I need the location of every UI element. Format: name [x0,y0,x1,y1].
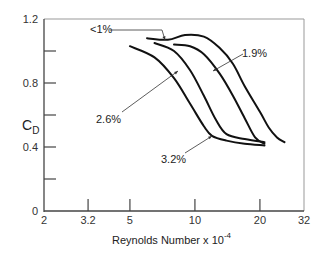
x-tick-label: 10 [189,214,201,226]
x-tick-label: 5 [127,214,133,226]
x-tick-label: 32 [298,214,310,226]
annotation-label: 1.9% [242,47,267,59]
x-tick-label: 20 [254,214,266,226]
annotation-label: <1% [90,23,113,35]
curve-3.2% [130,46,265,145]
curve-1.9% [174,45,265,144]
y-tick-label: 0.8 [23,77,38,89]
annotation-label: 2.6% [96,113,121,125]
x-tick-label: 2 [41,214,47,226]
x-axis: 23.25102032 [41,199,310,226]
y-tick-label: 0 [32,205,38,217]
chart: 00.40.81.2 23.25102032 <1%1.9%2.6%3.2% C… [0,0,324,256]
annotation-label: 3.2% [161,153,186,165]
y-axis: 00.40.81.2 [23,13,56,217]
x-tick-label: 3.2 [80,214,95,226]
y-tick-label: 0.4 [23,141,38,153]
y-axis-label: CD [22,117,39,136]
y-tick-label: 1.2 [23,13,38,25]
x-axis-label: Reynolds Number x 10-4 [112,231,232,246]
